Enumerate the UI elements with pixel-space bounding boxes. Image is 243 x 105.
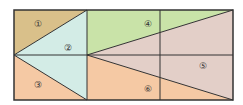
label-5: ⑤ bbox=[199, 61, 207, 71]
geometry-diagram: ① ② ③ ④ ⑤ ⑥ bbox=[0, 0, 243, 105]
label-3: ③ bbox=[34, 80, 42, 90]
label-1: ① bbox=[34, 19, 42, 29]
label-4: ④ bbox=[144, 19, 152, 29]
label-2: ② bbox=[64, 43, 72, 53]
label-6: ⑥ bbox=[144, 84, 152, 94]
